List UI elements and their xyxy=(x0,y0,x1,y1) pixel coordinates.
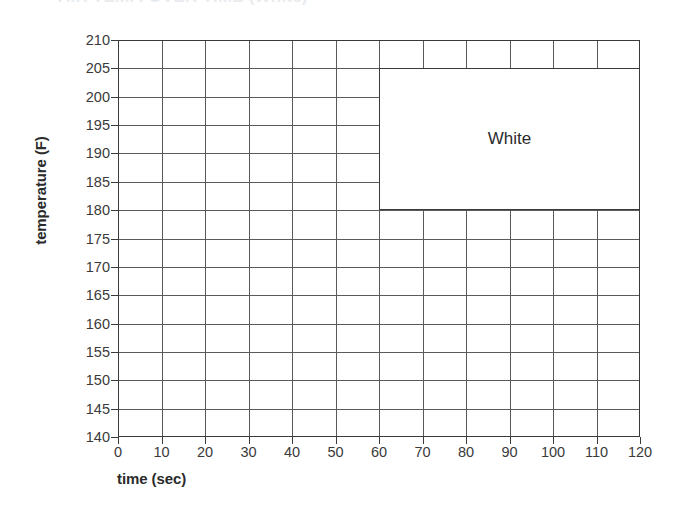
x-tick-label: 20 xyxy=(197,444,213,460)
y-axis-tick-labels: 1401451501551601651701751801851901952002… xyxy=(58,40,110,437)
x-tick-mark xyxy=(466,437,467,444)
white-region-rectangle: White xyxy=(379,68,640,210)
x-tick-mark xyxy=(510,437,511,444)
y-tick-mark xyxy=(111,437,118,438)
y-tick-label: 205 xyxy=(86,60,110,76)
x-tick-mark xyxy=(379,437,380,444)
x-tick-mark xyxy=(249,437,250,444)
y-tick-mark xyxy=(111,295,118,296)
y-tick-mark xyxy=(111,210,118,211)
x-tick-mark xyxy=(205,437,206,444)
x-tick-label: 0 xyxy=(114,444,122,460)
y-tick-label: 200 xyxy=(86,89,110,105)
plot-area: White xyxy=(118,40,640,437)
x-tick-label: 50 xyxy=(327,444,343,460)
y-tick-label: 190 xyxy=(86,145,110,161)
x-axis-tick-labels: 0102030405060708090100110120 xyxy=(118,444,640,466)
y-tick-mark xyxy=(111,182,118,183)
x-tick-label: 110 xyxy=(585,444,608,460)
y-tick-label: 145 xyxy=(86,401,110,417)
x-tick-label: 10 xyxy=(153,444,169,460)
x-tick-label: 80 xyxy=(458,444,474,460)
y-tick-mark xyxy=(111,409,118,410)
x-tick-mark xyxy=(423,437,424,444)
x-tick-mark xyxy=(292,437,293,444)
y-tick-label: 185 xyxy=(86,174,110,190)
y-tick-mark xyxy=(111,352,118,353)
y-tick-mark xyxy=(111,97,118,98)
y-tick-label: 210 xyxy=(86,32,110,48)
x-tick-mark xyxy=(553,437,554,444)
chart-title: AIR TEMP. OVER TIME (White) xyxy=(58,0,478,7)
y-tick-label: 165 xyxy=(86,287,110,303)
y-tick-label: 175 xyxy=(86,231,110,247)
y-tick-mark xyxy=(111,239,118,240)
y-tick-mark xyxy=(111,380,118,381)
x-tick-label: 30 xyxy=(240,444,256,460)
x-axis-label: time (sec) xyxy=(117,470,186,487)
y-tick-label: 160 xyxy=(86,316,110,332)
x-tick-label: 40 xyxy=(284,444,300,460)
y-tick-label: 140 xyxy=(86,429,110,445)
y-tick-label: 195 xyxy=(86,117,110,133)
y-tick-mark xyxy=(111,40,118,41)
x-tick-label: 70 xyxy=(414,444,430,460)
y-tick-mark xyxy=(111,267,118,268)
x-tick-mark xyxy=(118,437,119,444)
x-tick-label: 120 xyxy=(628,444,652,460)
x-tick-label: 100 xyxy=(541,444,565,460)
white-region-label: White xyxy=(380,129,639,149)
y-axis-label: temperature (F) xyxy=(32,81,49,301)
x-tick-label: 60 xyxy=(371,444,387,460)
y-tick-label: 150 xyxy=(86,372,110,388)
y-tick-mark xyxy=(111,324,118,325)
y-tick-label: 180 xyxy=(86,202,110,218)
x-tick-mark xyxy=(597,437,598,444)
y-tick-label: 170 xyxy=(86,259,110,275)
y-tick-label: 155 xyxy=(86,344,110,360)
x-tick-mark xyxy=(162,437,163,444)
x-tick-label: 90 xyxy=(501,444,517,460)
y-tick-mark xyxy=(111,125,118,126)
y-tick-mark xyxy=(111,153,118,154)
x-tick-mark xyxy=(640,437,641,444)
y-tick-mark xyxy=(111,68,118,69)
x-tick-mark xyxy=(336,437,337,444)
